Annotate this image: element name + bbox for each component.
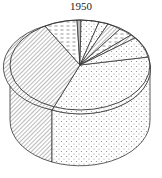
pie-chart-3d [0,0,162,178]
